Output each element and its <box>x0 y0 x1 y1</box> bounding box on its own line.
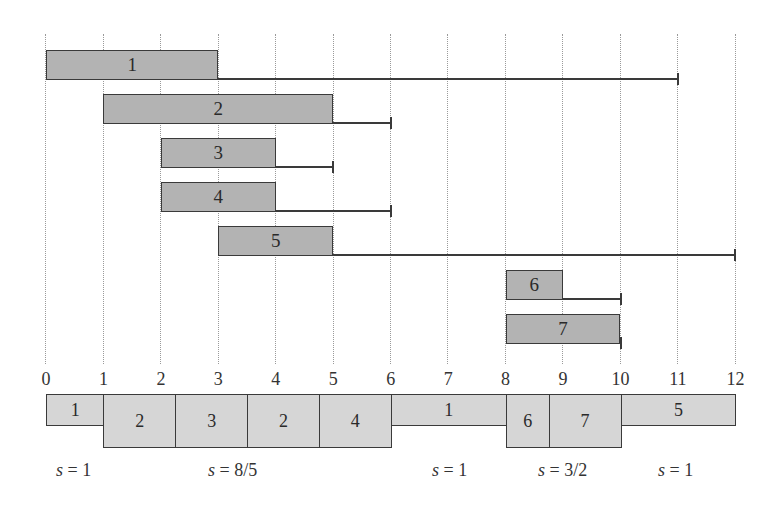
gridline <box>333 34 334 364</box>
schedule-segment-job-1: 1 <box>46 394 104 426</box>
speed-value: = 3/2 <box>545 460 587 480</box>
speed-variable: s <box>208 460 215 480</box>
gridline <box>45 34 46 364</box>
tick-label: 1 <box>88 369 118 390</box>
gridline <box>447 34 448 364</box>
speed-variable: s <box>432 460 439 480</box>
schedule-segment-job-2: 2 <box>103 394 176 448</box>
job-bar-7: 7 <box>506 314 621 344</box>
tick-label: 7 <box>433 369 463 390</box>
tick-label: 6 <box>376 369 406 390</box>
speed-label: s = 1 <box>658 460 693 481</box>
deadline-marker <box>620 293 622 305</box>
job-bar-2: 2 <box>103 94 333 124</box>
scheduling-diagram: 1234567 0123456789101112 123241675 s = 1… <box>0 0 777 505</box>
job-bar-4: 4 <box>161 182 276 212</box>
tick-label: 0 <box>31 369 61 390</box>
job-bar-6: 6 <box>506 270 563 300</box>
tick-label: 3 <box>203 369 233 390</box>
tick-label: 4 <box>261 369 291 390</box>
speed-value: = 1 <box>665 460 693 480</box>
speed-label: s = 8/5 <box>208 460 257 481</box>
gridline <box>390 34 391 364</box>
deadline-marker <box>390 117 392 129</box>
schedule-segment-job-4: 4 <box>319 394 392 448</box>
gridline <box>735 34 736 364</box>
schedule-segment-job-7: 7 <box>549 394 622 448</box>
speed-variable: s <box>658 460 665 480</box>
schedule-segment-job-2: 2 <box>247 394 320 448</box>
tick-label: 2 <box>146 369 176 390</box>
tick-label: 11 <box>663 369 693 390</box>
speed-variable: s <box>538 460 545 480</box>
tick-label: 12 <box>720 369 750 390</box>
deadline-marker <box>734 249 736 261</box>
speed-label: s = 1 <box>432 460 467 481</box>
job-bar-3: 3 <box>161 138 276 168</box>
tick-label: 10 <box>606 369 636 390</box>
schedule-segment-job-3: 3 <box>175 394 248 448</box>
schedule-segment-job-6: 6 <box>506 394 550 448</box>
speed-label: s = 3/2 <box>538 460 587 481</box>
tick-label: 8 <box>491 369 521 390</box>
speed-variable: s <box>56 460 63 480</box>
job-bar-5: 5 <box>218 226 333 256</box>
gridline <box>103 34 104 364</box>
deadline-marker <box>677 73 679 85</box>
speed-label: s = 1 <box>56 460 91 481</box>
job-bar-1: 1 <box>46 50 218 80</box>
deadline-marker <box>390 205 392 217</box>
speed-value: = 1 <box>63 460 91 480</box>
speed-value: = 8/5 <box>215 460 257 480</box>
schedule-segment-job-5: 5 <box>621 394 737 426</box>
schedule-segment-job-1: 1 <box>391 394 507 426</box>
tick-label: 5 <box>318 369 348 390</box>
speed-value: = 1 <box>439 460 467 480</box>
deadline-marker <box>332 161 334 173</box>
tick-label: 9 <box>548 369 578 390</box>
